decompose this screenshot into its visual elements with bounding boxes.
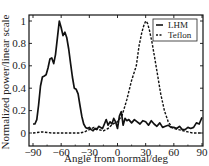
- legend-label-teflon: Teflon: [168, 30, 192, 40]
- y-tick-label: 0.8: [12, 37, 26, 49]
- y-tick-label: 0.2: [12, 104, 26, 116]
- x-tick-label: 90: [197, 146, 209, 158]
- y-tick-label: 0: [21, 127, 27, 139]
- y-tick-labels: 00.20.40.60.81: [12, 15, 26, 139]
- legend: LHM Teflon: [153, 19, 197, 41]
- y-tick-label: 0.4: [12, 82, 26, 94]
- x-tick-label: −90: [24, 146, 42, 158]
- x-tick-label: 60: [168, 146, 180, 158]
- x-axis-title: Angle from normal/deg: [64, 152, 168, 164]
- y-tick-label: 1: [21, 15, 27, 27]
- y-axis-title: Normalized power/linear scale: [0, 14, 11, 149]
- chart: −90−60−300306090 00.20.40.60.81 Angle fr…: [0, 0, 208, 166]
- legend-label-lhm: LHM: [168, 20, 188, 30]
- y-tick-label: 0.6: [12, 59, 26, 71]
